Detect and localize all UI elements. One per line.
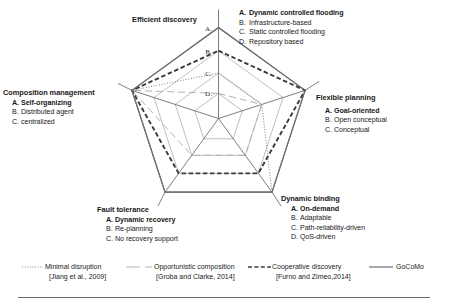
legend-citation: [Furno and Zimeo,2014]	[276, 272, 351, 281]
option-label: Dynamic recovery	[115, 216, 175, 226]
option-key: C.	[12, 118, 21, 128]
option-key: B.	[106, 225, 115, 235]
option-label: Repository based	[249, 38, 303, 48]
option-row: A. Dynamic recovery	[106, 216, 178, 226]
legend-citation: [Groba and Clarke, 2014]	[156, 272, 235, 281]
option-key: A.	[239, 9, 249, 19]
option-label: Dynamic controlled flooding	[249, 9, 343, 19]
legend-label: Minimal disruption	[45, 262, 106, 271]
option-row: D. Repository based	[239, 38, 343, 48]
option-row: B. Re-planning	[106, 225, 178, 235]
option-label: Static controlled flooding	[249, 28, 325, 38]
legend-item-opportunistic-composition: Opportunistic composition [Groba and Cla…	[154, 262, 235, 281]
options-fault-tolerance: A. Dynamic recovery B. Re-planning C. No…	[106, 216, 178, 245]
legend-item-cooperative-discovery: Cooperative discovery [Furno and Zimeo,2…	[272, 262, 351, 281]
radar-figure: A.B.C.D. Efficient discovery A. Dynamic …	[0, 0, 451, 307]
axis-block-fault-tolerance: Fault tolerance A. Dynamic recovery B. R…	[97, 205, 178, 244]
footer-rule	[18, 297, 430, 298]
option-row: B. Distributed agent	[12, 108, 95, 118]
chart-legend: Minimal disruption [Jiang et al., 2009] …	[0, 262, 451, 288]
option-key: D.	[239, 38, 249, 48]
option-label: No recovery support	[115, 235, 178, 245]
legend-item-minimal-disruption: Minimal disruption [Jiang et al., 2009]	[45, 262, 106, 281]
option-label: Adaptable	[300, 214, 332, 224]
option-key: B.	[239, 19, 249, 29]
series-opportunistic-composition	[132, 90, 262, 155]
axis-block-dynamic-binding: Dynamic binding A. On-demand B. Adaptabl…	[281, 194, 365, 243]
options-composition-management: A. Self-organizing B. Distributed agent …	[12, 99, 95, 128]
option-row: C. Path-reliability-driven	[291, 224, 365, 234]
tick-label-B: B.	[205, 48, 212, 56]
option-label: Open conceptual	[334, 116, 387, 126]
options-flexible-planning: A. Goal-oriented B. Open conceptual C. C…	[325, 107, 387, 136]
option-key: C.	[239, 28, 249, 38]
option-label: centralized	[21, 118, 55, 128]
option-label: Path-reliability-driven	[300, 224, 365, 234]
option-label: Conceptual	[334, 126, 369, 136]
options-dynamic-binding: A. On-demand B. Adaptable C. Path-reliab…	[291, 205, 365, 243]
options-efficient-discovery: A. Dynamic controlled flooding B. Infras…	[239, 9, 343, 47]
axis-block-flexible-planning: Flexible planning A. Goal-oriented B. Op…	[316, 93, 387, 135]
option-label: Goal-oriented	[334, 107, 379, 117]
option-row: B. Open conceptual	[325, 116, 387, 126]
legend-citation: [Jiang et al., 2009]	[49, 272, 106, 281]
leader-line	[118, 83, 132, 90]
option-row: D. QoS-driven	[291, 233, 365, 243]
option-row: B. Infrastructure-based	[239, 19, 343, 29]
axis-title-dynamic-binding: Dynamic binding	[281, 194, 365, 204]
option-label: Infrastructure-based	[249, 19, 311, 29]
leader-line	[272, 192, 281, 206]
option-row: A. On-demand	[291, 205, 365, 215]
option-row: A. Goal-oriented	[325, 107, 387, 117]
option-key: B.	[325, 116, 334, 126]
option-row: C. Conceptual	[325, 126, 387, 136]
option-row: A. Self-organizing	[12, 99, 95, 109]
option-key: A.	[12, 99, 21, 109]
option-label: On-demand	[300, 205, 339, 215]
option-row: C. centralized	[12, 118, 95, 128]
tick-label-D: D.	[205, 90, 212, 98]
legend-label: Cooperative discovery	[272, 262, 351, 271]
option-key: C.	[291, 224, 300, 234]
legend-label: GoCoMo	[396, 262, 424, 271]
option-key: D.	[291, 233, 300, 243]
option-key: A.	[325, 107, 334, 117]
option-row: C. No recovery support	[106, 235, 178, 245]
axis-title-fault-tolerance: Fault tolerance	[97, 205, 178, 215]
tick-label-A: A.	[205, 25, 212, 33]
axis-title-flexible-planning: Flexible planning	[316, 93, 387, 103]
option-row: B. Adaptable	[291, 214, 365, 224]
option-row: C. Static controlled flooding	[239, 28, 343, 38]
option-key: B.	[291, 214, 300, 224]
option-key: C.	[106, 235, 115, 245]
leader-line	[305, 81, 319, 90]
axis-title-composition-management: Composition management	[3, 88, 95, 98]
radar-tick-labels: A.B.C.D.	[205, 25, 212, 99]
radar-chart-svg: A.B.C.D.	[0, 0, 451, 307]
axis-title-efficient-discovery: Efficient discovery	[132, 15, 197, 25]
option-row: A. Dynamic controlled flooding	[239, 9, 343, 19]
option-key: B.	[12, 108, 21, 118]
option-key: A.	[291, 205, 300, 215]
option-label: Self-organizing	[21, 99, 71, 109]
tick-label-C: C.	[205, 70, 212, 78]
option-label: Re-planning	[115, 225, 153, 235]
legend-item-gocomo: GoCoMo	[396, 262, 424, 272]
option-label: QoS-driven	[300, 233, 335, 243]
option-label: Distributed agent	[21, 108, 74, 118]
legend-label: Opportunistic composition	[154, 262, 235, 271]
option-key: A.	[106, 216, 115, 226]
option-key: C.	[325, 126, 334, 136]
axis-block-composition-management: Composition management A. Self-organizin…	[3, 88, 95, 127]
